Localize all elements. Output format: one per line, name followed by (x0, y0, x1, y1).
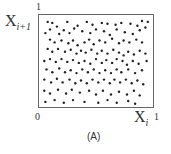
data-point (83, 60, 85, 62)
x-axis-var: X (134, 108, 146, 125)
data-point (120, 71, 122, 73)
data-point (61, 81, 63, 83)
data-point (68, 32, 70, 34)
data-point (75, 72, 77, 74)
data-point (126, 93, 128, 95)
data-point (47, 48, 49, 50)
data-point (91, 24, 93, 26)
data-point (58, 33, 60, 35)
data-point (72, 99, 74, 101)
data-point (66, 21, 68, 23)
data-point (43, 78, 45, 80)
data-point (88, 90, 90, 92)
data-point (141, 41, 143, 43)
data-point (57, 89, 59, 91)
data-point (110, 93, 112, 95)
data-point (91, 78, 93, 80)
data-point (67, 42, 69, 44)
y-axis-subscript: i+1 (17, 21, 32, 32)
data-point (80, 50, 82, 52)
data-point (101, 22, 103, 24)
data-point (119, 81, 121, 83)
data-point (141, 20, 143, 22)
data-point (109, 34, 111, 36)
data-point (104, 69, 106, 71)
data-point (49, 58, 51, 60)
data-point (133, 90, 135, 92)
data-point (56, 78, 58, 80)
data-point (144, 52, 146, 54)
data-point (135, 38, 137, 40)
data-point (43, 90, 45, 92)
data-point (98, 39, 100, 41)
data-point (145, 60, 147, 62)
data-point (50, 81, 52, 83)
data-point (70, 49, 72, 51)
data-point (132, 60, 134, 62)
data-point (76, 44, 78, 46)
data-point (127, 68, 129, 70)
data-point (70, 69, 72, 71)
data-point (126, 63, 128, 65)
data-point (51, 22, 53, 24)
data-point (74, 82, 76, 84)
data-point (89, 32, 91, 34)
data-point (86, 82, 88, 84)
data-point (136, 79, 138, 81)
data-point (118, 51, 120, 53)
data-point (95, 28, 97, 30)
x-axis-subscript: i (146, 117, 149, 128)
data-point (72, 59, 74, 61)
data-point (95, 93, 97, 95)
data-point (56, 25, 58, 27)
data-point (43, 60, 45, 62)
y-axis-label: Xi+1 (5, 13, 31, 32)
data-points (43, 20, 149, 105)
data-point (110, 72, 112, 74)
data-point (103, 30, 105, 32)
data-point (116, 58, 118, 60)
y-axis-var: X (5, 12, 17, 29)
data-point (118, 91, 120, 93)
data-point (51, 71, 53, 73)
data-point (60, 39, 62, 41)
data-point (134, 103, 136, 105)
data-point (96, 52, 98, 54)
data-point (53, 41, 55, 43)
data-point (121, 60, 123, 62)
data-point (95, 58, 97, 60)
data-point (141, 69, 143, 71)
data-point (129, 23, 131, 25)
data-point (139, 94, 141, 96)
data-point (101, 50, 103, 52)
data-point (65, 92, 67, 94)
data-point (49, 92, 51, 94)
data-point (128, 41, 130, 43)
data-point (88, 38, 90, 40)
data-point (111, 38, 113, 40)
figure-caption: (A) (87, 132, 100, 142)
x-right-tick: 1 (154, 112, 159, 122)
x-axis-label: Xi (134, 109, 148, 128)
data-point (114, 24, 116, 26)
data-point (49, 38, 51, 40)
data-point (58, 67, 60, 69)
data-point (47, 21, 49, 23)
data-point (98, 72, 100, 74)
data-point (49, 28, 51, 30)
data-point (93, 43, 95, 45)
data-point (132, 33, 134, 35)
data-point (63, 102, 65, 104)
data-point (79, 91, 81, 93)
data-point (102, 90, 104, 92)
data-point (116, 68, 118, 70)
data-point (137, 63, 139, 65)
data-point (83, 101, 85, 103)
data-point (73, 27, 75, 29)
data-point (124, 31, 126, 33)
data-point (71, 89, 73, 91)
data-point (76, 25, 78, 27)
data-point (83, 41, 85, 43)
data-point (105, 59, 107, 61)
data-point (139, 50, 141, 52)
